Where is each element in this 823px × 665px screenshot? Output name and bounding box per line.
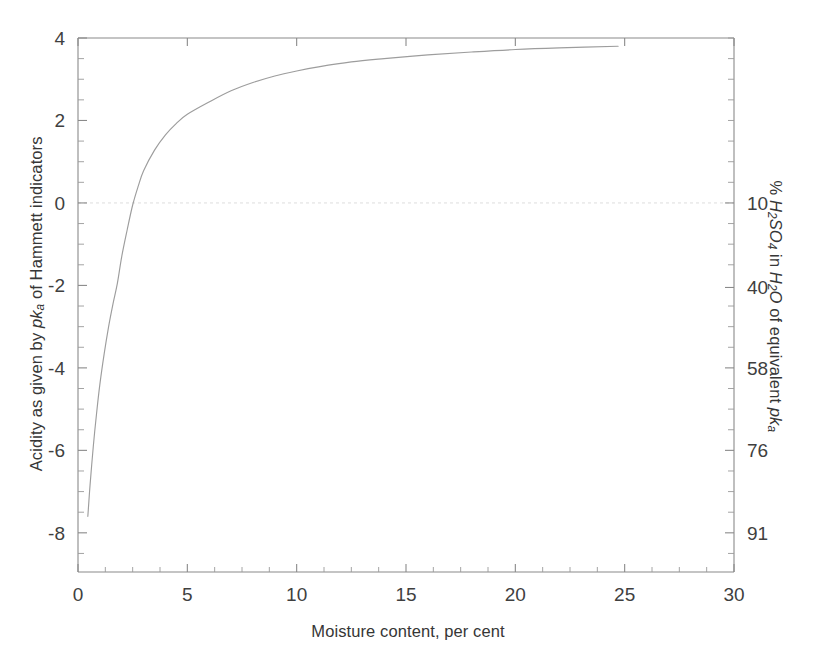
- x-axis-title: Moisture content, per cent: [278, 622, 538, 641]
- y-axis-left-title: Acidity as given by pka of Hammett indic…: [27, 141, 48, 471]
- y-axis-right-o: O: [767, 291, 785, 304]
- y-axis-right-equiv: of equivalent: [767, 304, 785, 408]
- y-tick-label-left: 4: [54, 28, 65, 49]
- y-axis-right-h2o: H2O: [767, 272, 785, 304]
- x-tick-label: 0: [73, 584, 84, 605]
- y-axis-left-title-pka: pka: [27, 304, 45, 328]
- y-axis-right-suba: a: [765, 425, 779, 432]
- x-tick-label: 15: [395, 584, 416, 605]
- y-axis-left-sub-a: a: [33, 304, 47, 311]
- y-tick-label-left: -8: [48, 523, 65, 544]
- x-tick-label: 5: [182, 584, 193, 605]
- y-axis-right-pka: pka: [767, 408, 785, 432]
- x-tick-label: 25: [614, 584, 635, 605]
- y-tick-label-left: -6: [48, 440, 65, 461]
- y-axis-left-title-text1: Acidity as given by: [27, 328, 45, 471]
- x-tick-label: 10: [286, 584, 307, 605]
- y-tick-label-right: 91: [747, 523, 768, 544]
- y-axis-right-percent: %: [767, 180, 785, 199]
- y-axis-right-so: SO: [767, 219, 785, 243]
- y-axis-right-title: % H2SO4 in H2O of equivalent pka: [765, 141, 786, 471]
- y-tick-label-left: 2: [54, 110, 65, 131]
- y-axis-right-pk: pk: [767, 408, 785, 426]
- y-axis-right-h: H: [767, 200, 785, 212]
- y-axis-left-title-text2: of Hammett indicators: [27, 136, 45, 303]
- y-tick-label-left: -4: [48, 358, 65, 379]
- y-axis-right-in: in: [767, 249, 785, 271]
- chart-plot-area: 051015202530420-2-4-6-81040587691: [0, 0, 823, 665]
- y-tick-label-left: -2: [48, 275, 65, 296]
- x-tick-label: 30: [723, 584, 744, 605]
- data-curve-acidity: [88, 46, 618, 516]
- y-axis-right-h2so4: H2SO4: [767, 200, 785, 250]
- y-tick-label-left: 0: [54, 193, 65, 214]
- chart-figure: 051015202530420-2-4-6-81040587691 Acidit…: [0, 0, 823, 665]
- y-axis-right-h2: H: [767, 272, 785, 284]
- y-axis-left-pk: pk: [27, 310, 45, 328]
- x-tick-label: 20: [505, 584, 526, 605]
